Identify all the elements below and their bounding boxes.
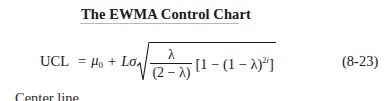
plus-sign: +: [108, 53, 116, 70]
radicand: λ (2 − λ) [1 − (1 − λ)2i]: [149, 42, 275, 82]
fraction-denominator: (2 − λ): [150, 64, 192, 81]
mu-symbol: μ0: [91, 52, 103, 70]
bracket-open-text: [1 − (1 − λ): [195, 56, 262, 72]
square-root: λ (2 − λ) [1 − (1 − λ)2i]: [137, 40, 275, 82]
equation-number: (8-23): [342, 53, 378, 70]
lambda-fraction: λ (2 − λ): [150, 47, 192, 81]
equals-sign: =: [78, 53, 86, 70]
sigma-symbol: σ: [129, 53, 136, 70]
equation-lhs: UCL: [40, 53, 69, 70]
exponent: 2i: [262, 55, 269, 65]
section-heading: The EWMA Control Chart: [81, 6, 251, 23]
bracket-expression: [1 − (1 − λ)2i]: [195, 55, 273, 73]
mu-subscript: 0: [98, 60, 103, 70]
heading-underline: [80, 23, 239, 24]
fraction-numerator: λ: [166, 47, 177, 63]
bracket-close: ]: [269, 56, 274, 72]
l-symbol: L: [121, 53, 129, 70]
next-line-text: Center line: [15, 90, 79, 101]
ucl-equation: UCL = μ0 + L σ λ (2 − λ) [1 − (1 − λ)2i]: [40, 40, 276, 82]
radical-icon: [137, 40, 149, 82]
